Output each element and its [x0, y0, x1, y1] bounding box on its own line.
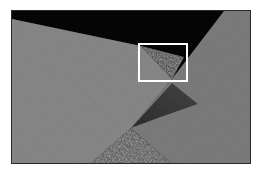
photo-content [12, 11, 251, 164]
highlight-box [138, 43, 188, 82]
photo [11, 10, 251, 164]
